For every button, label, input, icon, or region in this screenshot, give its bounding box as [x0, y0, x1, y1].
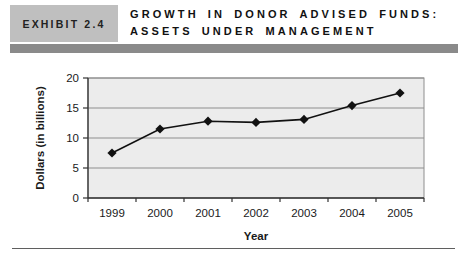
- y-tick-label: 5: [73, 162, 79, 174]
- x-tick-label: 2003: [291, 207, 317, 219]
- x-tick-label: 2002: [243, 207, 269, 219]
- chart-title-line2: ASSETS UNDER MANAGEMENT: [130, 23, 460, 40]
- bottom-rule: [12, 248, 455, 249]
- exhibit-label: EXHIBIT 2.4: [22, 18, 105, 30]
- y-axis-title: Dollars (in billions): [34, 86, 46, 190]
- y-tick-label: 15: [66, 102, 79, 114]
- x-tick-label: 1999: [99, 207, 125, 219]
- y-tick-label: 0: [73, 192, 79, 204]
- x-axis-title: Year: [244, 230, 269, 242]
- x-tick-label: 2000: [147, 207, 173, 219]
- y-tick-label: 20: [66, 72, 79, 84]
- header-divider-bar: [10, 44, 458, 53]
- exhibit-box: EXHIBIT 2.4: [10, 5, 118, 42]
- x-tick-label: 2001: [195, 207, 221, 219]
- line-chart: 051015201999200020012002200320042005Doll…: [0, 58, 468, 244]
- chart-title: GROWTH IN DONOR ADVISED FUNDS: ASSETS UN…: [130, 6, 460, 40]
- x-tick-label: 2004: [339, 207, 365, 219]
- page: EXHIBIT 2.4 GROWTH IN DONOR ADVISED FUND…: [0, 0, 468, 259]
- y-tick-label: 10: [66, 132, 79, 144]
- chart-svg: 051015201999200020012002200320042005Doll…: [0, 58, 468, 244]
- x-tick-label: 2005: [387, 207, 413, 219]
- chart-title-line1: GROWTH IN DONOR ADVISED FUNDS:: [130, 6, 460, 23]
